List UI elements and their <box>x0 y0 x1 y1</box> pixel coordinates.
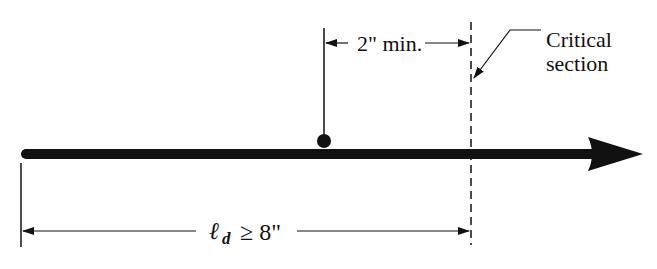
dev-length-subscript: d <box>222 229 231 248</box>
dev-length-relation: ≥ 8" <box>240 219 281 245</box>
cross-bar <box>317 28 331 148</box>
critical-section-leader <box>474 30 541 78</box>
critical-section-label-line1: Critical <box>546 27 612 52</box>
reinforcing-bar <box>26 137 643 171</box>
critical-section-label-line2: section <box>546 51 608 76</box>
min-spacing-label: 2" min. <box>357 31 422 56</box>
development-length-diagram: 2" min. Critical section ℓ d ≥ 8" <box>0 0 657 269</box>
dev-length-symbol: ℓ <box>209 218 219 244</box>
bar-arrowhead-icon <box>588 137 643 171</box>
